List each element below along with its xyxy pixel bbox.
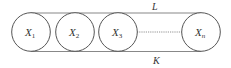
node-xn: Xn bbox=[182, 13, 221, 52]
node-x1: X1 bbox=[12, 13, 51, 52]
label-L: L bbox=[151, 1, 158, 12]
node-x3: X3 bbox=[99, 13, 138, 52]
label-K: K bbox=[152, 55, 161, 66]
node-x2: X2 bbox=[56, 13, 95, 52]
belt-diagram: X1 X2 X3 Xn L K bbox=[0, 0, 231, 68]
